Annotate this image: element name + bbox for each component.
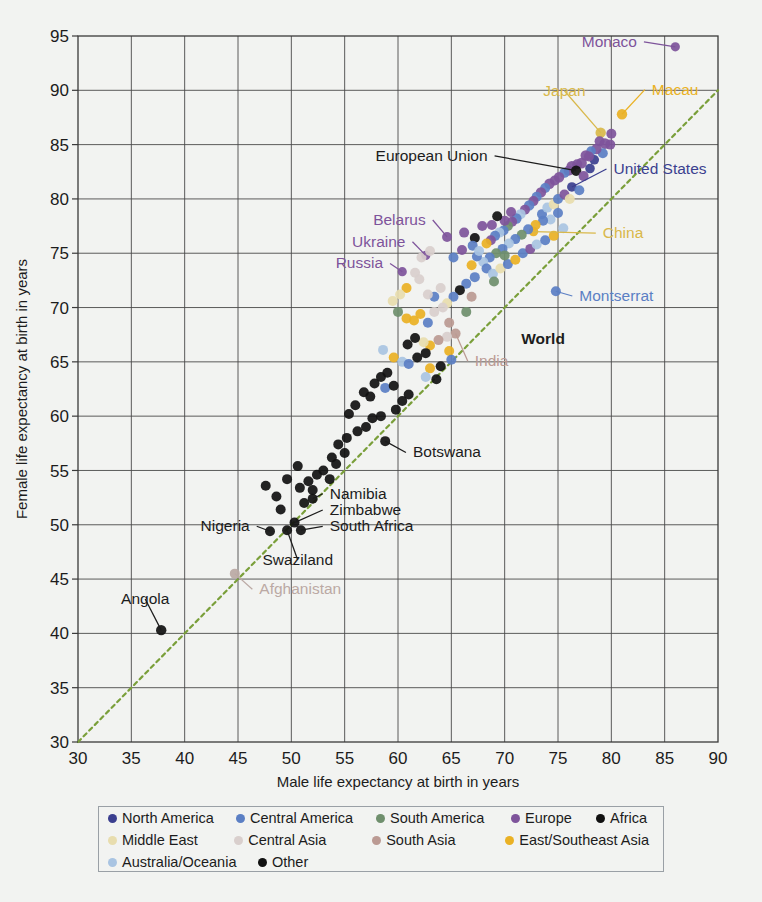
annotation-label-montserrat: Montserrat xyxy=(579,287,654,304)
legend-swatch-icon xyxy=(108,814,117,823)
y-tick-label: 80 xyxy=(50,190,69,209)
legend-item-south-asia[interactable]: South Asia xyxy=(372,832,505,848)
y-tick-label: 30 xyxy=(50,733,69,752)
data-point xyxy=(303,476,313,486)
data-point xyxy=(352,426,362,436)
annotation-label-macau: Macau xyxy=(652,81,699,98)
legend-item-north-america[interactable]: North America xyxy=(108,810,236,826)
x-tick-label: 30 xyxy=(69,749,88,768)
annotation-label-russia: Russia xyxy=(336,254,384,271)
data-point xyxy=(412,353,422,363)
data-point xyxy=(380,383,390,393)
data-point xyxy=(482,238,492,248)
legend-item-central-america[interactable]: Central America xyxy=(236,810,376,826)
annotation-label-belarus: Belarus xyxy=(373,211,426,228)
legend-swatch-icon xyxy=(258,858,267,867)
y-tick-label: 70 xyxy=(50,299,69,318)
data-point xyxy=(312,470,322,480)
legend-item-middle-east[interactable]: Middle East xyxy=(108,832,234,848)
data-point xyxy=(388,296,398,306)
data-point xyxy=(299,498,309,508)
y-tick-label: 50 xyxy=(50,516,69,535)
annotation-label-zimbabwe: Zimbabwe xyxy=(330,501,402,518)
y-tick-label: 95 xyxy=(50,27,69,46)
data-point xyxy=(470,272,480,282)
data-point xyxy=(605,140,615,150)
legend-row: North AmericaCentral AmericaSouth Americ… xyxy=(99,807,663,829)
x-tick-label: 40 xyxy=(175,749,194,768)
x-tick-label: 75 xyxy=(549,749,568,768)
legend-label: Australia/Oceania xyxy=(122,854,236,870)
data-point xyxy=(606,129,616,139)
legend-label: Africa xyxy=(610,810,647,826)
legend-item-central-asia[interactable]: Central Asia xyxy=(234,832,372,848)
annotation-label-monaco: Monaco xyxy=(582,33,637,50)
legend-item-east-southeast-asia[interactable]: East/Southeast Asia xyxy=(505,832,663,848)
data-point xyxy=(425,246,435,256)
data-point xyxy=(438,303,448,313)
legend-item-australia-oceania[interactable]: Australia/Oceania xyxy=(108,854,258,870)
x-tick-label: 90 xyxy=(709,749,728,768)
data-point xyxy=(340,448,350,458)
legend-item-europe[interactable]: Europe xyxy=(511,810,596,826)
y-tick-label: 35 xyxy=(50,679,69,698)
x-tick-label: 55 xyxy=(335,749,354,768)
data-point xyxy=(429,307,439,317)
annotation-label-world: World xyxy=(521,330,565,347)
data-point xyxy=(423,318,433,328)
annotation-label-south-africa: South Africa xyxy=(330,517,414,534)
data-point xyxy=(492,211,502,221)
data-point xyxy=(461,307,471,317)
y-tick-label: 45 xyxy=(50,570,69,589)
data-point xyxy=(393,307,403,317)
legend-item-south-america[interactable]: South America xyxy=(376,810,511,826)
y-tick-label: 65 xyxy=(50,353,69,372)
data-point xyxy=(425,363,435,373)
x-tick-label: 65 xyxy=(442,749,461,768)
data-point xyxy=(361,422,371,432)
data-point xyxy=(506,207,516,217)
data-point xyxy=(467,292,477,302)
data-point xyxy=(448,253,458,263)
data-point xyxy=(421,348,431,358)
annotation-label-india: India xyxy=(475,352,509,369)
y-tick-label: 55 xyxy=(50,462,69,481)
data-point xyxy=(331,459,341,469)
data-point xyxy=(344,409,354,419)
annotation-label-china: China xyxy=(603,224,644,241)
legend-row: Middle EastCentral AsiaSouth AsiaEast/So… xyxy=(99,829,663,851)
data-point xyxy=(376,411,386,421)
data-point xyxy=(423,290,433,300)
data-point xyxy=(540,235,550,245)
data-point xyxy=(444,346,454,356)
data-point xyxy=(565,194,575,204)
data-point xyxy=(532,240,542,250)
legend-row: Australia/OceaniaOther xyxy=(99,851,663,873)
legend-item-other[interactable]: Other xyxy=(258,854,338,870)
data-point xyxy=(421,372,431,382)
legend-item-africa[interactable]: Africa xyxy=(596,810,656,826)
data-point xyxy=(404,359,414,369)
scatter-plot: MonacoJapanMacauEuropean UnionUnited Sta… xyxy=(0,0,762,902)
annotation-label-namibia: Namibia xyxy=(330,485,387,502)
data-point xyxy=(295,483,305,493)
data-point xyxy=(391,405,401,415)
x-axis-title: Male life expectancy at birth in years xyxy=(277,773,520,790)
data-point xyxy=(378,345,388,355)
legend-swatch-icon xyxy=(234,836,243,845)
chart-root: MonacoJapanMacauEuropean UnionUnited Sta… xyxy=(0,0,762,902)
y-tick-label: 90 xyxy=(50,81,69,100)
data-point xyxy=(457,245,467,255)
y-tick-label: 60 xyxy=(50,407,69,426)
data-point xyxy=(574,185,584,195)
data-point xyxy=(477,221,487,231)
data-point xyxy=(350,400,360,410)
x-tick-label: 85 xyxy=(655,749,674,768)
legend: North AmericaCentral AmericaSouth Americ… xyxy=(98,806,664,872)
data-point xyxy=(282,474,292,484)
data-point xyxy=(419,337,429,347)
legend-swatch-icon xyxy=(596,814,605,823)
data-point xyxy=(276,505,286,515)
data-point xyxy=(500,250,510,260)
data-point xyxy=(585,164,595,174)
